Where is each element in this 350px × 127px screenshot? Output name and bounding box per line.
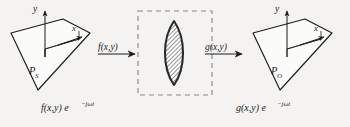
output-plane-caption: g(x,y) e −jωt (236, 100, 291, 114)
output-y-axis-label: y (274, 4, 280, 14)
optical-system-box-group (138, 11, 212, 95)
source-plane-label-subscript: S (35, 72, 39, 80)
output-plane-group: y x P O g(x,y) e −jωt (236, 4, 332, 114)
source-caption-exponent: −jωt (81, 100, 95, 107)
output-plane-parallelogram (253, 19, 332, 90)
optical-diagram-svg: y x P S f(x,y) e −jωt f(x,y) (0, 0, 350, 127)
output-caption-exponent: −jωt (277, 100, 291, 107)
source-x-axis-label: x (71, 23, 76, 33)
figure-root: y x P S f(x,y) e −jωt f(x,y) (0, 0, 350, 127)
source-plane-caption: f(x,y) e −jωt (41, 100, 95, 114)
output-caption-main: g(x,y) e (236, 102, 267, 114)
source-y-axis-label: y (32, 4, 38, 14)
output-plane-label-subscript: O (277, 72, 282, 80)
input-arrow-label: f(x,y) (98, 42, 118, 53)
input-arrow-group: f(x,y) (98, 42, 135, 54)
output-arrow-group: g(x,y) (205, 42, 242, 54)
output-arrow-label: g(x,y) (205, 42, 227, 53)
source-plane-parallelogram (11, 19, 90, 90)
lens-aperture-shape (165, 21, 183, 85)
source-caption-main: f(x,y) e (41, 102, 69, 114)
output-x-axis-label: x (313, 23, 318, 33)
source-plane-group: y x P S f(x,y) e −jωt (11, 4, 95, 114)
